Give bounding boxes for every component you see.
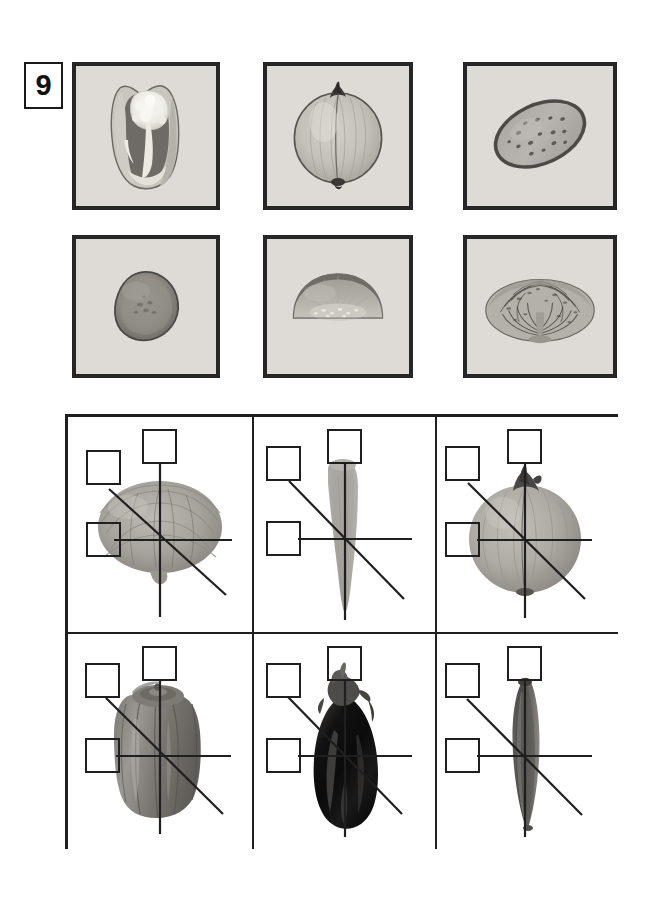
exercise-number-label: 9 bbox=[35, 71, 51, 100]
symmetry-cell-cabbage bbox=[68, 417, 252, 632]
checkbox-horizontal-axis[interactable] bbox=[445, 738, 480, 773]
checkbox-vertical-axis[interactable] bbox=[507, 646, 542, 681]
symmetry-cell-carrot bbox=[254, 417, 435, 632]
exercise-number-badge: 9 bbox=[24, 62, 63, 109]
checkbox-vertical-axis[interactable] bbox=[142, 429, 177, 464]
checkbox-diagonal-axis[interactable] bbox=[445, 446, 480, 481]
cucumber-slice-cross-section-image bbox=[467, 66, 613, 206]
symmetry-cell-cucumber bbox=[437, 634, 618, 850]
onion-cross-section-image bbox=[267, 66, 409, 206]
checkbox-horizontal-axis[interactable] bbox=[266, 521, 301, 556]
checkbox-horizontal-axis[interactable] bbox=[86, 522, 121, 557]
symmetry-cell-eggplant bbox=[254, 634, 435, 850]
checkbox-vertical-axis[interactable] bbox=[327, 646, 362, 681]
checkbox-diagonal-axis[interactable] bbox=[266, 663, 301, 698]
checkbox-diagonal-axis[interactable] bbox=[445, 663, 480, 698]
checkbox-horizontal-axis[interactable] bbox=[85, 738, 120, 773]
checkbox-horizontal-axis[interactable] bbox=[266, 738, 301, 773]
checkbox-diagonal-axis[interactable] bbox=[266, 446, 301, 481]
photo-frame-cucumber-slice-cross-section bbox=[463, 62, 617, 210]
potato-cross-section-image bbox=[76, 239, 216, 374]
symmetry-grid bbox=[65, 414, 618, 849]
eggplant-half-cross-section-image bbox=[267, 239, 409, 374]
photo-frame-onion-cross-section bbox=[263, 62, 413, 210]
checkbox-diagonal-axis[interactable] bbox=[86, 450, 121, 485]
checkbox-vertical-axis[interactable] bbox=[142, 646, 177, 681]
checkbox-vertical-axis[interactable] bbox=[507, 429, 542, 464]
photo-frame-eggplant-half-cross-section bbox=[263, 235, 413, 378]
checkbox-vertical-axis[interactable] bbox=[327, 429, 362, 464]
bell-pepper-cross-section-image bbox=[76, 66, 216, 206]
cabbage-cross-section-image bbox=[467, 239, 613, 374]
symmetry-cell-onion bbox=[437, 417, 618, 632]
checkbox-diagonal-axis[interactable] bbox=[85, 663, 120, 698]
symmetry-cell-bell-pepper bbox=[68, 634, 252, 850]
checkbox-horizontal-axis[interactable] bbox=[445, 522, 480, 557]
worksheet-page: 9 bbox=[0, 0, 649, 906]
photo-frame-potato-cross-section bbox=[72, 235, 220, 378]
photo-frame-bell-pepper-cross-section bbox=[72, 62, 220, 210]
photo-frame-cabbage-cross-section bbox=[463, 235, 617, 378]
